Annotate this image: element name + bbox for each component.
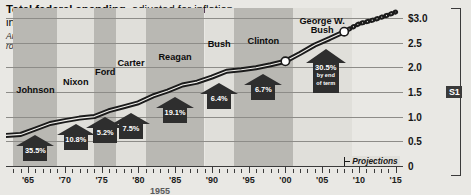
axis-tick (322, 166, 323, 173)
growth-arrow: 6.7% (244, 74, 282, 100)
y-axis-label: 2.0 (408, 62, 422, 73)
axis-tick (227, 169, 228, 173)
axis-tick (300, 169, 301, 173)
spending-chart: Total federal spending, adjusted for inf… (0, 0, 471, 195)
axis-tick (109, 169, 110, 173)
axis-tick (388, 169, 389, 173)
x-axis-label: '80 (132, 175, 144, 185)
growth-percent: 19.1% (165, 109, 186, 117)
growth-percent: 7.5% (123, 125, 140, 133)
axis-tick (138, 166, 139, 173)
axis-tick (352, 169, 353, 173)
axis-tick (249, 166, 250, 173)
axis-tick (344, 169, 345, 173)
president-name: Ford (95, 68, 115, 78)
president-name: Nixon (63, 78, 89, 88)
x-axis-label: '70 (59, 175, 71, 185)
x-axis-label: '85 (169, 175, 181, 185)
president-name: Bush (208, 40, 231, 50)
axis-tick (366, 169, 367, 173)
president-name: George W.Bush (299, 17, 344, 36)
axis-tick (396, 166, 397, 173)
y-axis-label: $3.0 (408, 12, 427, 23)
axis-tick (72, 169, 73, 173)
x-axis-label: '95 (243, 175, 255, 185)
axis-tick (87, 169, 88, 173)
president-name: Clinton (247, 37, 279, 47)
axis-tick (116, 169, 117, 173)
axis-tick (175, 166, 176, 173)
growth-arrow: 7.5% (112, 113, 150, 139)
bottom-cut-text: 1955 (150, 188, 170, 195)
axis-tick (80, 169, 81, 173)
axis-tick (13, 169, 14, 173)
axis-tick (160, 169, 161, 173)
axis-tick (219, 169, 220, 173)
x-axis-label: '90 (206, 175, 218, 185)
projections-start-cap (344, 157, 345, 166)
axis-tick (263, 169, 264, 173)
president-name: Carter (117, 59, 144, 69)
axis-tick (374, 169, 375, 173)
axis-tick (28, 166, 29, 173)
axis-tick (153, 169, 154, 173)
axis-tick (315, 169, 316, 173)
section-label: S1 (446, 86, 462, 98)
president-name: Reagan (158, 53, 191, 63)
axis-tick (278, 169, 279, 173)
x-axis-label: '15 (390, 175, 402, 185)
growth-arrow: 30.5%by endof term (306, 49, 346, 93)
x-axis-ticks (6, 166, 403, 173)
axis-tick (293, 169, 294, 173)
axis-tick (271, 169, 272, 173)
y-axis-label: 1.5 (408, 86, 422, 97)
growth-percent: 30.5%by endof term (315, 64, 337, 87)
growth-arrow: 35.5% (16, 135, 54, 161)
axis-tick (65, 166, 66, 173)
x-axis-label: '10 (353, 175, 365, 185)
axis-tick (50, 169, 51, 173)
axis-tick (57, 169, 58, 173)
growth-percent: 10.8% (65, 136, 86, 144)
axis-tick (197, 169, 198, 173)
y-axis-label: 2.5 (408, 37, 422, 48)
x-axis-label: '75 (95, 175, 107, 185)
axis-tick (234, 169, 235, 173)
axis-tick (146, 169, 147, 173)
axis-tick (381, 169, 382, 173)
term-marker (281, 57, 289, 65)
growth-percent: 6.4% (211, 95, 228, 103)
bottom-edge-strip: 1955 (0, 188, 471, 195)
projections-label: Projections (350, 156, 400, 166)
axis-tick (329, 169, 330, 173)
x-axis-label: '00 (279, 175, 291, 185)
y-axis-label: 0 (408, 161, 414, 172)
y-axis-label: 1.0 (408, 111, 422, 122)
growth-arrow: 19.1% (156, 97, 194, 123)
axis-tick (94, 169, 95, 173)
axis-tick (190, 169, 191, 173)
axis-tick (21, 169, 22, 173)
x-axis-label: '05 (316, 175, 328, 185)
axis-tick (205, 169, 206, 173)
axis-tick (241, 169, 242, 173)
growth-arrow: 6.4% (200, 83, 238, 109)
axis-tick (359, 166, 360, 173)
x-axis-label: '65 (22, 175, 34, 185)
axis-tick (256, 169, 257, 173)
axis-tick (43, 169, 44, 173)
axis-tick (307, 169, 308, 173)
y-axis-label: 0.5 (408, 136, 422, 147)
axis-tick (102, 166, 103, 173)
axis-tick (182, 169, 183, 173)
growth-percent: 6.7% (255, 86, 272, 94)
president-name: Johnson (16, 86, 54, 96)
axis-tick (131, 169, 132, 173)
axis-tick (285, 166, 286, 173)
axis-tick (168, 169, 169, 173)
axis-tick (35, 169, 36, 173)
axis-tick (337, 169, 338, 173)
axis-tick (212, 166, 213, 173)
axis-tick (124, 169, 125, 173)
growth-percent: 35.5% (25, 147, 46, 155)
